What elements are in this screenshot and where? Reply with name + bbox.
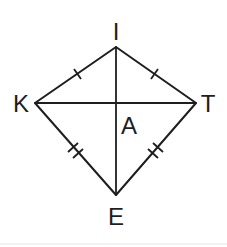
bottom-border bbox=[0, 243, 227, 245]
vertex-label-K: K bbox=[13, 90, 29, 117]
vertex-label-I: I bbox=[113, 18, 120, 45]
edge-KI bbox=[35, 47, 116, 103]
intersection-label-A: A bbox=[121, 112, 137, 139]
edge-KE bbox=[35, 103, 116, 195]
edge-IT bbox=[116, 47, 196, 103]
kite-diagram: I K T E A bbox=[0, 0, 227, 247]
tick-mark-IT bbox=[151, 69, 158, 79]
vertex-label-E: E bbox=[108, 203, 124, 230]
tick-mark-KI bbox=[74, 69, 81, 79]
vertex-label-T: T bbox=[201, 90, 216, 117]
